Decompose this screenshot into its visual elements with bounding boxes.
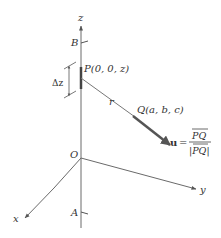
point-a-tick [81,212,88,214]
equals-sign: = [179,137,187,148]
y-axis [81,158,196,189]
x-axis-label: x [13,213,19,224]
delta-z-label: Δz [52,78,63,88]
y-axis-label: y [199,184,206,195]
u-symbol: u [170,137,177,148]
unit-vector-u [133,116,170,145]
origin-label: O [70,149,78,160]
vector-field-diagram: z x y O B A P(0, 0, z) Δz r Q(a, b, c) u… [0,0,221,238]
point-q-label: Q(a, b, c) [137,104,184,115]
z-axis-label: z [77,12,84,23]
r-line [81,78,135,117]
point-b-tick [81,41,88,43]
formula-numerator: PQ [191,130,206,141]
delta-z-bracket [64,62,76,98]
unit-vector-formula: u = PQ |PQ| [170,129,211,157]
formula-denominator: |PQ| [189,145,210,157]
point-a-label: A [70,207,78,218]
point-p-label: P(0, 0, z) [83,63,129,74]
point-b-label: B [70,37,78,48]
